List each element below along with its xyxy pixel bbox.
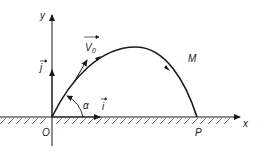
- ground-hatching: [0, 118, 230, 124]
- projectile-diagram: y x O P M V 0 j i α: [0, 0, 261, 151]
- origin-label: O: [42, 127, 50, 138]
- unit-i-label: i: [102, 101, 105, 112]
- velocity-subscript: 0: [92, 47, 96, 54]
- trajectory-direction-arrow-down: [164, 65, 170, 71]
- trajectory-curve: [52, 47, 197, 117]
- angle-arc: [67, 96, 83, 117]
- y-axis-label: y: [39, 10, 46, 21]
- label-vector-overlines: [40, 36, 107, 101]
- unit-j-label: j: [38, 62, 43, 73]
- point-m-label: M: [188, 53, 197, 64]
- angle-label: α: [83, 100, 89, 111]
- diagram-svg: y x O P M V 0 j i α: [0, 0, 261, 151]
- landing-point-label: P: [195, 127, 202, 138]
- x-axis-label: x: [242, 118, 249, 129]
